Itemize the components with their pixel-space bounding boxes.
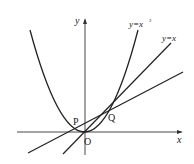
y-axis-arrow-icon bbox=[83, 18, 87, 24]
parabola-label: y=x bbox=[128, 19, 143, 29]
line-label: y=x bbox=[161, 33, 176, 43]
point-p-label: P bbox=[73, 116, 79, 127]
tangent-line bbox=[28, 72, 183, 153]
x-axis-label: x bbox=[176, 134, 182, 145]
origin-label: O bbox=[84, 136, 91, 147]
y-axis-label: y bbox=[74, 15, 80, 26]
function-graph: y x O P Q y=x 2 y=x bbox=[0, 0, 194, 164]
line-y-equals-x bbox=[63, 43, 171, 154]
parabola-label-exponent: 2 bbox=[149, 18, 152, 23]
parabola-curve bbox=[30, 30, 138, 132]
point-q-label: Q bbox=[108, 112, 116, 123]
